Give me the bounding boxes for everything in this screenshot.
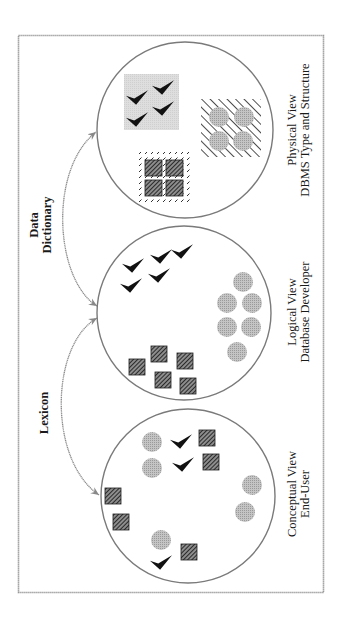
svg-text:Dictionary: Dictionary <box>40 196 54 254</box>
logical-view-label: Logical View Database Developer <box>285 261 312 363</box>
conceptual-view-subtitle: End-User <box>298 469 312 518</box>
physical-view <box>97 42 273 218</box>
database-views-diagram: Data Dictionary Lexicon <box>0 0 339 621</box>
data-dictionary-label: Data Dictionary <box>27 196 54 254</box>
lexicon-label: Lexicon <box>37 392 51 434</box>
data-dictionary-arrow <box>63 132 97 306</box>
svg-text:Lexicon: Lexicon <box>37 392 51 434</box>
physical-view-subtitle: DBMS Type and Structure <box>298 63 312 197</box>
logical-view-subtitle: Database Developer <box>298 261 312 363</box>
lexicon-arrow <box>61 318 99 495</box>
conceptual-view <box>101 409 275 583</box>
svg-text:Data: Data <box>27 211 41 237</box>
logical-view <box>97 226 271 400</box>
physical-view-label: Physical View DBMS Type and Structure <box>285 63 312 197</box>
conceptual-view-title: Conceptual View <box>285 451 299 537</box>
hatched-square-group <box>137 152 192 202</box>
gray-circle-group <box>201 99 261 157</box>
logical-view-title: Logical View <box>285 278 299 345</box>
checkmark-group <box>124 74 179 130</box>
physical-view-title: Physical View <box>285 94 299 166</box>
diagram-canvas: Data Dictionary Lexicon <box>0 0 339 621</box>
conceptual-view-label: Conceptual View End-User <box>285 451 312 537</box>
